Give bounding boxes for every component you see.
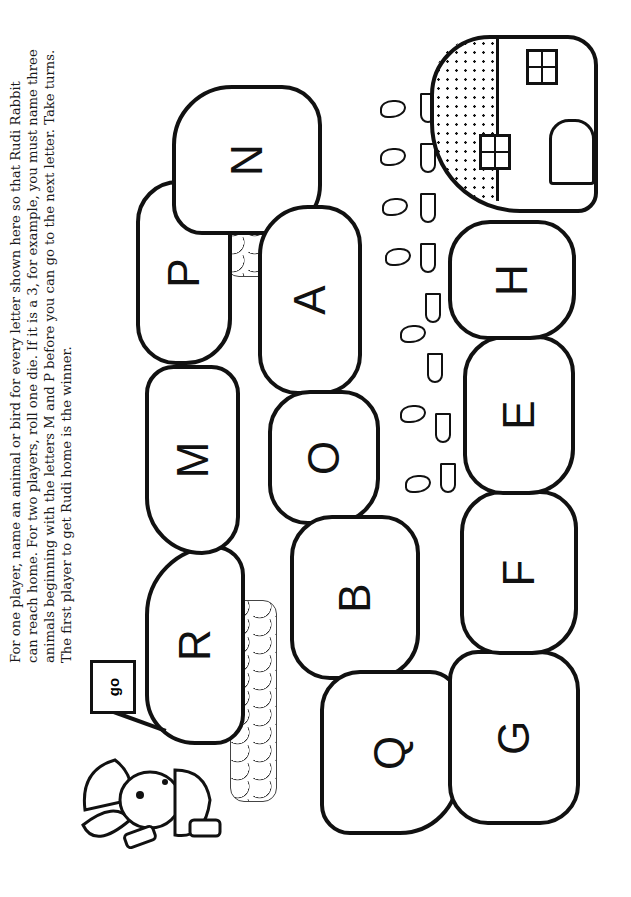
window-icon	[479, 134, 511, 170]
rabbit-house-icon	[430, 35, 598, 213]
stone-m[interactable]: M	[145, 365, 240, 555]
letter-g: G	[489, 720, 539, 754]
activity-page: For one player, name an animal or bird f…	[0, 0, 631, 897]
stone-g[interactable]: G	[448, 650, 580, 825]
flag-text: go	[105, 678, 122, 696]
carrot-icon	[427, 353, 443, 383]
carrot-leaves-icon	[380, 148, 406, 166]
stone-b[interactable]: B	[290, 515, 420, 680]
rudi-rabbit-icon	[75, 700, 235, 850]
thatched-roof-icon	[434, 39, 499, 201]
door-icon	[549, 119, 595, 185]
window-icon	[526, 49, 558, 85]
carrot-leaves-icon	[400, 405, 426, 423]
carrot-leaves-icon	[380, 100, 406, 118]
stone-q[interactable]: Q	[320, 670, 460, 835]
letter-b: B	[330, 583, 380, 612]
letter-f: F	[494, 559, 544, 586]
stone-o[interactable]: O	[268, 390, 380, 525]
letter-m: M	[168, 442, 218, 479]
letter-n: N	[222, 144, 272, 176]
letter-e: E	[494, 400, 544, 429]
carrot-icon	[440, 463, 456, 493]
stone-f[interactable]: F	[460, 490, 578, 655]
stone-a[interactable]: A	[258, 205, 362, 395]
carrot-leaves-icon	[382, 198, 408, 216]
letter-p: P	[159, 258, 209, 287]
carrot-icon	[435, 413, 451, 443]
carrot-leaves-icon	[405, 475, 431, 493]
carrot-icon	[425, 293, 441, 323]
game-board: R M P N A O B Q G F E	[0, 0, 631, 897]
carrot-leaves-icon	[400, 325, 426, 343]
letter-q: Q	[365, 735, 415, 769]
letter-o: O	[299, 440, 349, 474]
carrot-leaves-icon	[385, 248, 411, 266]
stone-h[interactable]: H	[448, 220, 576, 340]
letter-r: R	[170, 629, 220, 661]
carrot-icon	[420, 193, 436, 223]
letter-h: H	[487, 264, 537, 296]
letter-a: A	[285, 285, 335, 314]
stone-e[interactable]: E	[463, 335, 575, 495]
carrot-icon	[420, 243, 436, 273]
